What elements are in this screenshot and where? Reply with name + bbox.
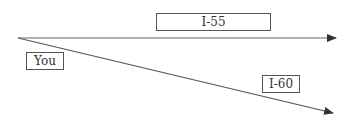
i55-label: I-55 bbox=[156, 13, 271, 31]
you-label: You bbox=[26, 52, 64, 70]
i60-label: I-60 bbox=[262, 75, 300, 93]
